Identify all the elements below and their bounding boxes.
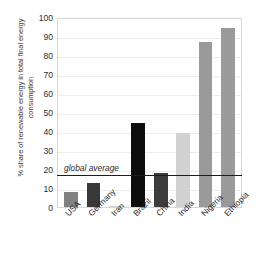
bar-chart: % share of renewable energy in total fin…	[0, 0, 259, 272]
bar-ethiopia	[221, 28, 235, 207]
x-axis-tick-labels: USAGermanyIranBrazilChinaIndiaNigeriaEth…	[57, 209, 242, 269]
y-axis-tick: 0	[23, 203, 53, 213]
bar-slot	[194, 19, 216, 207]
bar-brazil	[131, 123, 145, 207]
bar-nigeria	[199, 42, 213, 207]
y-axis-tick: 70	[23, 70, 53, 80]
bars-group	[58, 19, 241, 207]
bar-slot	[217, 19, 239, 207]
bar-slot	[172, 19, 194, 207]
bar-slot	[82, 19, 104, 207]
plot-area: global average	[57, 18, 242, 208]
y-axis-tick: 20	[23, 165, 53, 175]
y-axis-tick: 60	[23, 89, 53, 99]
y-axis-tick: 10	[23, 184, 53, 194]
y-axis-tick: 100	[23, 13, 53, 23]
bar-slot	[127, 19, 149, 207]
y-axis-tick: 40	[23, 127, 53, 137]
y-axis-tick: 30	[23, 146, 53, 156]
y-axis-tick-labels: 0102030405060708090100	[0, 0, 56, 272]
bar-slot	[150, 19, 172, 207]
y-axis-tick: 80	[23, 51, 53, 61]
y-axis-tick: 50	[23, 108, 53, 118]
y-axis-tick: 90	[23, 32, 53, 42]
global-average-label: global average	[64, 163, 119, 173]
bar-india	[176, 133, 190, 207]
global-average-line	[57, 175, 242, 177]
bar-slot	[60, 19, 82, 207]
bar-slot	[105, 19, 127, 207]
